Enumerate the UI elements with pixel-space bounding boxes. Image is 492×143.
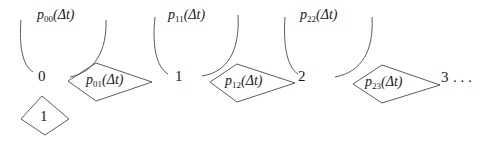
self-loop-2-left-arc xyxy=(285,17,298,74)
state-1-label: 1 xyxy=(175,68,183,84)
self-loop-2-label: p22(Δt) xyxy=(299,7,338,24)
transition-2-3-label: p23(Δt) xyxy=(364,74,403,91)
markov-chain-diagram: p00(Δt) p11(Δt) p22(Δt) p01(Δt) p12(Δt) … xyxy=(0,0,492,143)
self-loop-1-left-arc xyxy=(154,17,168,74)
state-3-label: 3 xyxy=(441,69,449,85)
self-loop-1-label: p11(Δt) xyxy=(167,7,205,24)
self-loop-2-right-arc xyxy=(335,17,372,77)
below-node-label: 1 xyxy=(40,108,48,124)
state-0-label: 0 xyxy=(38,68,46,84)
self-loop-0-left-arc xyxy=(20,20,33,72)
continuation-ellipsis: . . . xyxy=(453,69,472,85)
transition-1-2-label: p12(Δt) xyxy=(224,73,263,90)
self-loop-0-label: p00(Δt) xyxy=(36,7,75,24)
transition-0-1-label: p01(Δt) xyxy=(85,72,124,89)
state-2-label: 2 xyxy=(298,68,306,84)
